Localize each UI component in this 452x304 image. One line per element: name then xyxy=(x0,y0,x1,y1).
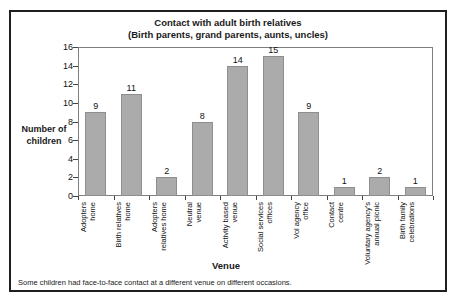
x-category-label-wrapper: Contact centre xyxy=(327,202,361,276)
x-tick-mark xyxy=(291,196,292,200)
y-tick-label: 12 xyxy=(47,79,73,89)
y-tick-mark xyxy=(73,140,78,141)
y-tick-label: 6 xyxy=(47,135,73,145)
chart-frame: Contact with adult birth relatives (Birt… xyxy=(9,10,447,292)
x-category-label: Activity based venue xyxy=(221,202,255,276)
x-category-label-wrapper: Adopters home xyxy=(79,202,113,276)
y-tick-mark xyxy=(73,177,78,178)
x-category-label-wrapper: Neutral venue xyxy=(185,202,219,276)
chart-stage: Contact with adult birth relatives (Birt… xyxy=(11,12,445,290)
y-tick-label: 10 xyxy=(47,98,73,108)
x-category-label-wrapper: Activity based venue xyxy=(221,202,255,276)
footer-note: Some children had face-to-face contact a… xyxy=(18,278,292,287)
y-tick-label: 14 xyxy=(47,61,73,71)
bar xyxy=(121,94,142,196)
x-category-label-wrapper: Birth relatives home xyxy=(114,202,148,276)
x-tick-mark xyxy=(256,196,257,200)
bar xyxy=(156,177,177,196)
x-category-label: Voluntary agency's annual picnic xyxy=(363,202,397,276)
x-category-label: Adopters relatives home xyxy=(150,202,184,276)
bar xyxy=(227,66,248,196)
y-tick-mark xyxy=(73,122,78,123)
scanned-chart-page: Contact with adult birth relatives (Birt… xyxy=(0,0,452,304)
bar xyxy=(298,112,319,196)
x-tick-mark xyxy=(78,196,79,200)
x-tick-mark xyxy=(327,196,328,200)
bar xyxy=(369,177,390,196)
x-category-label: Birth relatives home xyxy=(114,202,148,276)
bar-value-label: 14 xyxy=(225,55,251,65)
bar-value-label: 11 xyxy=(118,83,144,93)
x-category-label-wrapper: Voluntary agency's annual picnic xyxy=(363,202,397,276)
bar-value-label: 9 xyxy=(296,101,322,111)
bar-value-label: 9 xyxy=(83,101,109,111)
y-tick-label: 2 xyxy=(47,172,73,182)
x-tick-mark xyxy=(185,196,186,200)
y-tick-mark xyxy=(73,84,78,85)
x-category-label: Neutral venue xyxy=(185,202,219,276)
y-tick-label: 0 xyxy=(47,191,73,201)
x-tick-mark xyxy=(149,196,150,200)
x-category-label-wrapper: Adopters relatives home xyxy=(150,202,184,276)
x-category-label-wrapper: Birth family celebrations xyxy=(398,202,432,276)
x-category-label-wrapper: Vol agency office xyxy=(292,202,326,276)
chart-title-block: Contact with adult birth relatives (Birt… xyxy=(11,17,445,41)
y-tick-mark xyxy=(73,47,78,48)
x-tick-mark xyxy=(398,196,399,200)
x-category-label: Social services offices xyxy=(256,202,290,276)
x-category-label: Birth family celebrations xyxy=(398,202,432,276)
bar-value-label: 15 xyxy=(260,45,286,55)
chart-title: Contact with adult birth relatives xyxy=(11,17,445,29)
y-tick-mark xyxy=(73,66,78,67)
x-category-label: Vol agency office xyxy=(292,202,326,276)
bar-value-label: 1 xyxy=(331,176,357,186)
y-tick-label: 8 xyxy=(47,117,73,127)
x-category-label: Contact centre xyxy=(327,202,361,276)
x-category-label-wrapper: Social services offices xyxy=(256,202,290,276)
bar-value-label: 1 xyxy=(402,176,428,186)
x-tick-mark xyxy=(362,196,363,200)
y-tick-label: 4 xyxy=(47,154,73,164)
y-tick-mark xyxy=(73,159,78,160)
bar-value-label: 2 xyxy=(154,166,180,176)
x-category-label: Adopters home xyxy=(79,202,113,276)
x-tick-mark xyxy=(433,196,434,200)
y-tick-mark xyxy=(73,103,78,104)
y-tick-label: 16 xyxy=(47,42,73,52)
chart-subtitle: (Birth parents, grand parents, aunts, un… xyxy=(11,29,445,41)
x-tick-mark xyxy=(220,196,221,200)
x-tick-mark xyxy=(114,196,115,200)
bar-value-label: 8 xyxy=(189,111,215,121)
bar xyxy=(85,112,106,196)
bar xyxy=(334,187,355,196)
bar xyxy=(263,56,284,196)
bar xyxy=(405,187,426,196)
bar xyxy=(192,122,213,197)
bar-value-label: 2 xyxy=(367,166,393,176)
